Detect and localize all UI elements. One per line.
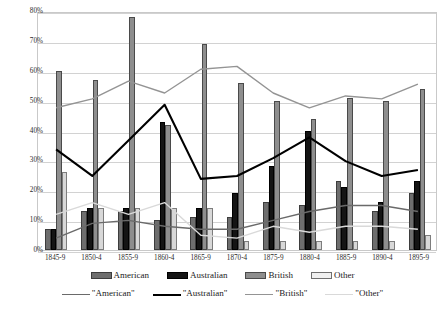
legend-label: "British" (275, 288, 307, 299)
x-axis: 1845-91850-41855-91860-41865-91870-41875… (37, 252, 437, 268)
legend-label: American (114, 270, 149, 281)
chart-legend: AmericanAustralianBritishOther "American… (0, 268, 445, 313)
y-tick-label: 40% (9, 128, 43, 135)
x-tick-label: 1845-9 (37, 254, 73, 262)
legend-color-swatch-icon (167, 272, 188, 279)
y-tick-label: 20% (9, 187, 43, 194)
legend-row-bars: AmericanAustralianBritishOther (0, 270, 445, 281)
x-tick-label: 1895-9 (401, 254, 437, 262)
y-tick-label: 30% (9, 157, 43, 164)
legend-item-american-line[interactable]: "American" (62, 288, 135, 299)
y-tick-label: 60% (9, 68, 43, 75)
y-tick-label: 50% (9, 98, 43, 105)
x-tick-label: 1860-4 (146, 254, 182, 262)
plot-area (37, 12, 437, 251)
legend-item-other-bar[interactable]: Other (311, 270, 355, 281)
lines-layer (38, 13, 436, 250)
y-tick-label: 70% (9, 38, 43, 45)
legend-label: Other (334, 270, 355, 281)
legend-item-australian-line[interactable]: "Australian" (153, 288, 228, 299)
y-tick-label: 80% (9, 8, 43, 15)
chart-root: 0%10%20%30%40%50%60%70%80% 1845-91850-41… (0, 0, 445, 313)
line-american (56, 206, 418, 239)
legend-color-swatch-icon (91, 272, 112, 279)
legend-item-australian-bar[interactable]: Australian (167, 270, 228, 281)
legend-item-british-bar[interactable]: British (245, 270, 293, 281)
legend-label: Australian (190, 270, 228, 281)
x-tick-label: 1880-4 (292, 254, 328, 262)
legend-item-british-line[interactable]: "British" (245, 288, 307, 299)
x-tick-label: 1850-4 (73, 254, 109, 262)
x-tick-label: 1885-9 (328, 254, 364, 262)
legend-item-american-bar[interactable]: American (91, 270, 149, 281)
x-tick-label: 1855-9 (110, 254, 146, 262)
x-tick-label: 1870-4 (219, 254, 255, 262)
x-tick-label: 1875-9 (255, 254, 291, 262)
line-australian (56, 105, 418, 179)
legend-color-swatch-icon (311, 272, 332, 279)
y-tick-label: 10% (9, 217, 43, 224)
legend-label: "Australian" (183, 288, 228, 299)
legend-label: "American" (92, 288, 135, 299)
legend-label: "Other" (355, 288, 383, 299)
legend-color-swatch-icon (245, 272, 266, 279)
legend-row-lines: "American""Australian""British""Other" (0, 288, 445, 299)
x-tick-label: 1890-4 (364, 254, 400, 262)
line-british (56, 66, 418, 107)
x-tick-label: 1865-9 (182, 254, 218, 262)
line-other (56, 203, 418, 239)
legend-label: British (268, 270, 293, 281)
legend-item-other-line[interactable]: "Other" (325, 288, 383, 299)
